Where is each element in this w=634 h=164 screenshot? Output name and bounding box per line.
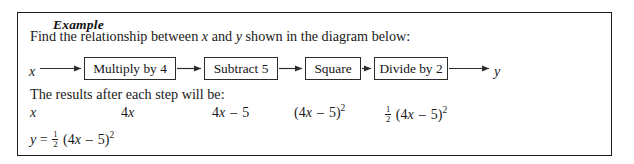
flow-output-label: y [494, 65, 500, 79]
result-term-4x: 4x [121, 105, 134, 121]
result-term-4x-minus-5-squared: (4x – 5)2 [294, 105, 345, 121]
result-term-half-4x-minus-5-squared: 12 (4x – 5)2 [384, 105, 447, 124]
example-legend: Example [48, 17, 110, 32]
final-equation: y = 12 (4x – 5)2 [30, 130, 114, 149]
result-term-x: x [30, 105, 36, 121]
prompt-part-3: shown in the diagram below: [242, 28, 410, 44]
flow-node-square: Square [305, 57, 361, 80]
results-intro-text: The results after each step will be: [30, 86, 225, 102]
example-figure: Example Find the relationship between x … [0, 0, 634, 164]
flow-input-label: x [29, 65, 35, 79]
result-term-4x-minus-5: 4x – 5 [212, 105, 249, 121]
flow-node-divide-by-2: Divide by 2 [374, 57, 448, 80]
prompt-part-2: and [208, 28, 236, 44]
flow-node-subtract-5: Subtract 5 [204, 57, 278, 80]
fraction-one-half-final: 12 [52, 130, 58, 149]
fraction-one-half: 12 [385, 105, 391, 124]
flow-node-multiply-by-4: Multiply by 4 [84, 57, 176, 80]
